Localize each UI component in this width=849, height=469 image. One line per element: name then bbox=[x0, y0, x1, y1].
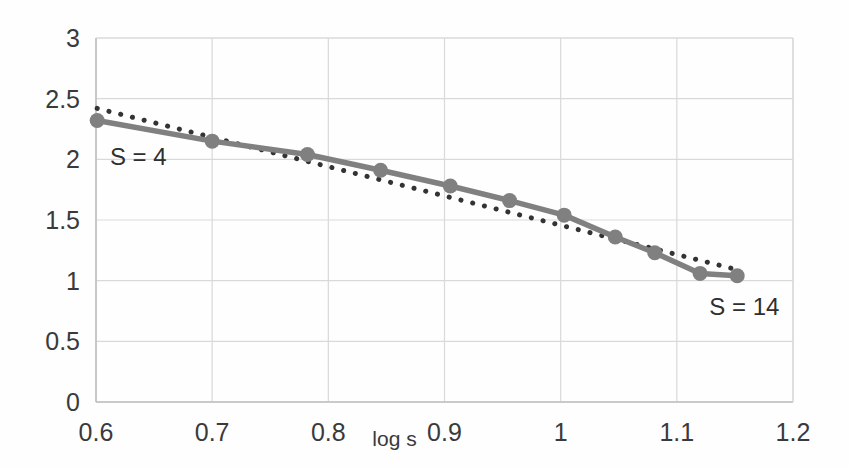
y-axis-tick-label: 0.5 bbox=[45, 329, 80, 354]
grid-lines bbox=[96, 38, 793, 402]
x-axis-tick-label: 1.2 bbox=[776, 420, 811, 445]
data-series-line bbox=[97, 121, 737, 276]
y-axis-tick-label: 2 bbox=[66, 147, 80, 172]
x-axis-tick-label: 0.9 bbox=[427, 420, 462, 445]
x-axis-tick-label: 0.8 bbox=[311, 420, 346, 445]
x-axis-tick-label: 0.6 bbox=[79, 420, 114, 445]
x-axis-tick-label: 1.1 bbox=[659, 420, 694, 445]
chart-container: 00.511.522.53 0.60.70.80.911.11.2 log s … bbox=[0, 0, 849, 469]
y-axis-tick-label: 3 bbox=[66, 26, 80, 51]
y-axis-tick-label: 2.5 bbox=[45, 86, 80, 111]
x-axis-tick-label: 0.7 bbox=[195, 420, 230, 445]
y-axis-tick-label: 0 bbox=[66, 390, 80, 415]
y-axis-tick-label: 1 bbox=[66, 268, 80, 293]
series-annotation: S = 4 bbox=[110, 145, 167, 169]
chart-plot-svg bbox=[0, 0, 849, 469]
series-annotation: S = 14 bbox=[709, 295, 779, 319]
x-axis-tick-label: 1 bbox=[554, 420, 568, 445]
y-axis-tick-label: 1.5 bbox=[45, 208, 80, 233]
x-axis-title: log s bbox=[372, 428, 416, 449]
